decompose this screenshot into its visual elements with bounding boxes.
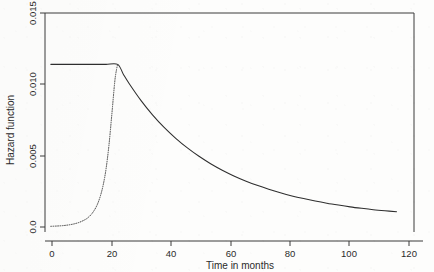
x-tick-label-120: 120 [401, 248, 417, 259]
y-axis-ticks [40, 13, 45, 227]
hazard-function-chart: 0.0 0.005 0.010 0.015 Hazard function 0 … [0, 0, 434, 272]
frame-left-top-right [45, 13, 414, 232]
series-line-piecewise-hazard [51, 64, 397, 212]
x-tick-label-100: 100 [341, 248, 357, 259]
series-line-weibull-hazard [51, 64, 118, 226]
y-tick-label-0015: 0.015 [27, 1, 38, 25]
x-tick-label-60: 60 [226, 248, 237, 259]
x-axis-ticks [52, 241, 409, 246]
plot-frame [45, 13, 414, 232]
figure-container: 0.0 0.005 0.010 0.015 Hazard function 0 … [0, 0, 434, 272]
y-tick-label-0010: 0.010 [27, 72, 38, 96]
x-axis-title: Time in months [206, 260, 274, 271]
x-tick-label-0: 0 [49, 248, 54, 259]
x-tick-label-40: 40 [166, 248, 177, 259]
y-tick-label-0005: 0.005 [27, 144, 38, 168]
y-axis-title: Hazard function [5, 95, 16, 165]
x-tick-label-20: 20 [107, 248, 118, 259]
y-axis-tick-labels: 0.0 0.005 0.010 0.015 [27, 1, 38, 234]
x-tick-label-80: 80 [285, 248, 296, 259]
y-tick-label-0: 0.0 [27, 220, 38, 233]
x-axis-tick-labels: 0 20 40 60 80 100 120 [49, 248, 417, 259]
